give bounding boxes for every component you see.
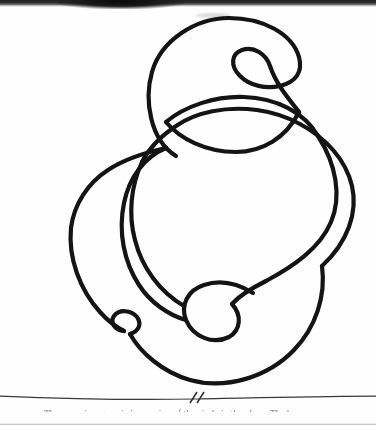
curve-right-closing-arc <box>257 110 354 266</box>
curve-upper-left-diagonal <box>71 148 166 228</box>
scanned-page: The curve is a generic immersion of the … <box>0 0 376 425</box>
horizontal-rule <box>0 396 376 399</box>
curve-lower-inner-arc <box>122 148 186 320</box>
figure-caption: The curve is a generic immersion of the … <box>44 409 344 420</box>
curve-figure <box>0 0 376 425</box>
break-hatch-2 <box>197 392 204 403</box>
break-hatch-1 <box>190 392 197 403</box>
rule-group <box>0 392 376 403</box>
continuous-curve-group <box>71 18 354 383</box>
curve-bottom-center-loop <box>184 283 253 341</box>
curve-bottom-left-loop <box>112 311 139 334</box>
